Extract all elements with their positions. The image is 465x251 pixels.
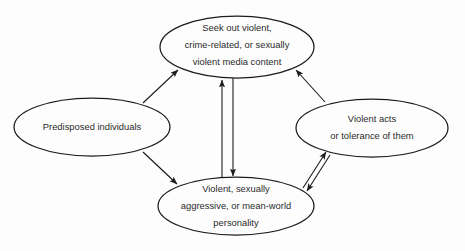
node-predisposed-label: Predisposed individuals xyxy=(43,121,142,132)
node-seek-media-label-line-3: violent media content xyxy=(193,56,282,67)
node-violent-acts[interactable]: Violent acts or tolerance of them xyxy=(296,99,448,157)
node-violent-acts-shape xyxy=(296,99,448,157)
node-seek-media-label-line-2: crime-related, or sexually xyxy=(185,39,290,50)
edge-predisposed-to-personality xyxy=(143,152,177,184)
node-violent-acts-label-line-2: or tolerance of them xyxy=(330,130,414,141)
node-violent-acts-label-line-1: Violent acts xyxy=(348,113,397,124)
diagram-canvas: Seek out violent, crime-related, or sexu… xyxy=(0,0,465,251)
node-personality[interactable]: Violent, sexually aggressive, or mean-wo… xyxy=(158,177,314,235)
flow-diagram: Seek out violent, crime-related, or sexu… xyxy=(0,0,465,251)
node-seek-media-label-line-1: Seek out violent, xyxy=(202,22,271,33)
edge-personality-to-violent-acts xyxy=(303,152,326,188)
node-personality-label-line-3: personality xyxy=(213,217,259,228)
node-personality-label-line-2: aggressive, or mean-world xyxy=(181,200,291,211)
node-predisposed[interactable]: Predisposed individuals xyxy=(14,98,170,156)
edge-violent-acts-to-personality xyxy=(307,155,330,191)
edge-violent-acts-to-seek-media xyxy=(296,70,325,102)
node-seek-media[interactable]: Seek out violent, crime-related, or sexu… xyxy=(160,16,314,78)
node-personality-label-line-1: Violent, sexually xyxy=(202,183,270,194)
edge-predisposed-to-seek-media xyxy=(143,70,178,103)
